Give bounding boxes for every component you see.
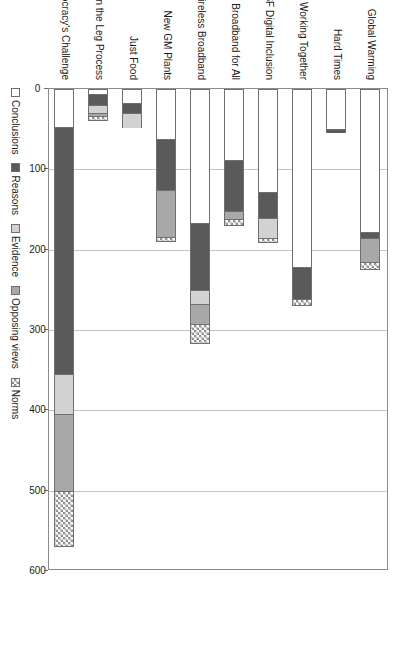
legend-item-conclusions[interactable]: Conclusions	[11, 88, 22, 154]
segment-conclusions	[190, 89, 210, 223]
conclusions-swatch	[12, 88, 21, 97]
category-label: Citizens in the Leg Process	[94, 0, 105, 80]
bar-citizens-in-the-leg-process[interactable]	[88, 89, 108, 121]
segment-reasons	[224, 160, 244, 211]
segment-reasons	[258, 192, 278, 218]
reasons-swatch	[12, 163, 21, 172]
segment-conclusions	[360, 89, 380, 232]
legend-label: Norms	[11, 390, 22, 419]
axis-tick	[44, 88, 48, 89]
segment-norms	[224, 219, 244, 225]
segment-evidence	[258, 218, 278, 239]
legend-item-norms[interactable]: Norms	[11, 378, 22, 419]
segment-reasons	[122, 103, 142, 113]
segment-conclusions	[224, 89, 244, 160]
opposing-views-swatch	[12, 286, 21, 295]
chart-legend: ConclusionsReasonsEvidenceOpposing views…	[8, 88, 24, 419]
value-axis: 0100200300400500600	[26, 88, 48, 570]
segment-opposing-views	[360, 238, 380, 262]
segment-reasons	[156, 139, 176, 190]
category-axis: Global WarmingHard TimesWorking Together…	[48, 0, 388, 86]
legend-label: Reasons	[11, 175, 22, 214]
bar-broadband-for-all[interactable]	[224, 89, 244, 226]
segment-reasons	[88, 94, 108, 105]
norms-swatch	[12, 378, 21, 387]
category-label: Broadband for All	[230, 3, 241, 80]
evidence-swatch	[12, 224, 21, 233]
bar-just-food[interactable]	[122, 89, 142, 128]
segment-conclusions	[122, 89, 142, 103]
segment-evidence	[190, 290, 210, 304]
segment-opposing-views	[54, 414, 74, 490]
segment-evidence	[54, 374, 74, 414]
segment-opposing-views	[224, 211, 244, 219]
segment-norms	[292, 299, 312, 305]
stacked-bar-chart: Global WarmingHard TimesWorking Together…	[0, 0, 410, 661]
rotated-figure-container: Global WarmingHard TimesWorking Together…	[0, 0, 410, 661]
legend-label: Opposing views	[11, 298, 22, 369]
segment-reasons	[190, 223, 210, 290]
bars-layer	[49, 89, 387, 569]
bar-wireless-broadband[interactable]	[190, 89, 210, 344]
category-label: Just Food	[128, 36, 139, 80]
axis-tick-label: 0	[35, 83, 41, 94]
segment-norms	[360, 262, 380, 270]
legend-item-evidence[interactable]: Evidence	[11, 224, 22, 277]
segment-norms	[258, 238, 278, 243]
segment-conclusions	[292, 89, 312, 267]
bar-working-together[interactable]	[292, 89, 312, 306]
segment-reasons	[54, 127, 74, 374]
legend-item-reasons[interactable]: Reasons	[11, 163, 22, 214]
category-label: SF Digital Inclusion	[264, 0, 275, 80]
category-label: Democracy's Challenge	[60, 0, 71, 80]
bar-global-warming[interactable]	[360, 89, 380, 270]
segment-conclusions	[156, 89, 176, 139]
legend-label: Conclusions	[11, 100, 22, 154]
axis-tick-label: 100	[29, 163, 46, 174]
legend-item-opposing-views[interactable]: Opposing views	[11, 286, 22, 369]
segment-norms	[156, 237, 176, 242]
bar-sf-digital-inclusion[interactable]	[258, 89, 278, 243]
category-label: Global Warming	[366, 9, 377, 80]
category-label: New GM Plants	[162, 11, 173, 80]
segment-conclusions	[258, 89, 278, 192]
segment-opposing-views	[156, 190, 176, 237]
axis-tick-label: 200	[29, 243, 46, 254]
segment-norms	[190, 324, 210, 345]
segment-opposing-views	[190, 304, 210, 323]
legend-label: Evidence	[11, 236, 22, 277]
segment-norms	[88, 116, 108, 121]
axis-tick-label: 600	[29, 565, 46, 576]
segment-conclusions	[54, 89, 74, 127]
category-label: Wireless Broadband	[196, 0, 207, 80]
segment-reasons	[326, 129, 346, 133]
segment-conclusions	[326, 89, 346, 129]
axis-tick-label: 400	[29, 404, 46, 415]
plot-area	[48, 88, 388, 570]
segment-norms	[54, 491, 74, 547]
category-label: Working Together	[298, 2, 309, 80]
segment-reasons	[292, 267, 312, 299]
segment-evidence	[122, 113, 142, 127]
bar-hard-times[interactable]	[326, 89, 346, 133]
bar-democracy-s-challenge[interactable]	[54, 89, 74, 547]
axis-tick-label: 500	[29, 484, 46, 495]
axis-tick-label: 300	[29, 324, 46, 335]
category-label: Hard Times	[332, 29, 343, 80]
segment-evidence	[88, 105, 108, 113]
bar-new-gm-plants[interactable]	[156, 89, 176, 242]
